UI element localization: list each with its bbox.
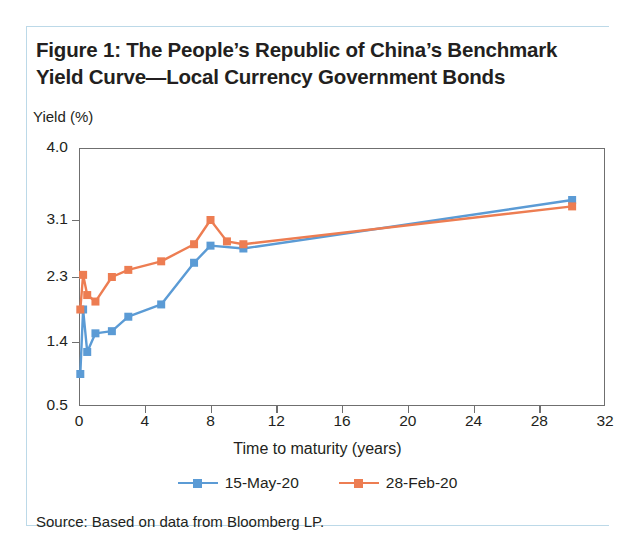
legend-label: 28-Feb-20 — [386, 474, 458, 492]
y-tick-label: 4.0 — [24, 138, 68, 156]
x-tick-label: 20 — [388, 412, 428, 430]
legend-swatch-icon — [339, 477, 379, 489]
y-tick-mark — [72, 277, 80, 278]
legend-swatch-icon — [178, 477, 218, 489]
y-tick-label: 1.4 — [24, 332, 68, 350]
x-tick-label: 32 — [585, 412, 625, 430]
y-tick-mark — [72, 220, 80, 221]
x-tick-label: 28 — [519, 412, 559, 430]
x-tick-label: 8 — [191, 412, 231, 430]
x-tick-mark — [408, 406, 409, 413]
x-tick-mark — [539, 406, 540, 413]
x-axis-title: Time to maturity (years) — [0, 440, 635, 458]
x-tick-mark — [342, 406, 343, 413]
x-tick-mark — [474, 406, 475, 413]
x-tick-label: 0 — [59, 412, 99, 430]
y-tick-mark — [72, 342, 80, 343]
x-tick-label: 4 — [125, 412, 165, 430]
y-tick-label: 2.3 — [24, 267, 68, 285]
x-tick-label: 12 — [256, 412, 296, 430]
plot-frame — [79, 148, 605, 406]
x-tick-mark — [276, 406, 277, 413]
y-tick-label: 3.1 — [24, 210, 68, 228]
legend-label: 15-May-20 — [225, 474, 299, 492]
x-tick-mark — [145, 406, 146, 413]
chart-plot-area: 0.51.42.33.14.0 048121620242832 — [0, 0, 635, 549]
x-tick-mark — [211, 406, 212, 413]
chart-legend: 15-May-2028-Feb-20 — [0, 474, 635, 492]
x-tick-label: 24 — [454, 412, 494, 430]
legend-entry[interactable]: 28-Feb-20 — [339, 474, 458, 492]
x-tick-label: 16 — [322, 412, 362, 430]
source-note: Source: Based on data from Bloomberg LP. — [36, 513, 324, 530]
legend-entry[interactable]: 15-May-20 — [178, 474, 299, 492]
